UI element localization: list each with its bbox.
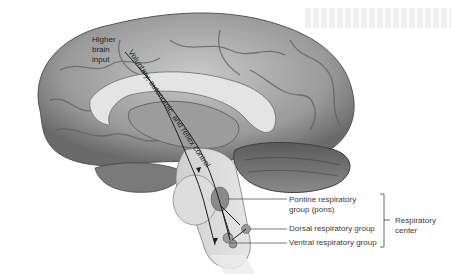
respiratory-center-bracket bbox=[380, 194, 390, 247]
temporal-lobe bbox=[95, 163, 181, 192]
pontine-group-nucleus bbox=[211, 187, 229, 211]
respiratory-center-label: Respiratory center bbox=[395, 216, 436, 236]
ventral-group-nucleus-b bbox=[229, 240, 237, 248]
brain-illustration: Voluntary, autonomic, and reflex control bbox=[0, 0, 451, 274]
pontine-respiratory-group-label: Pontine respiratory group (pons) bbox=[289, 195, 356, 215]
dorsal-respiratory-group-label: Dorsal respiratory group bbox=[289, 224, 375, 234]
cerebellum bbox=[234, 143, 350, 193]
higher-brain-input-label: Higher brain input bbox=[92, 35, 116, 65]
brain-respiratory-diagram: Voluntary, autonomic, and reflex control… bbox=[0, 0, 451, 274]
pons bbox=[173, 175, 217, 225]
faded-background-text bbox=[305, 8, 451, 28]
ventral-respiratory-group-label: Ventral respiratory group bbox=[289, 238, 377, 248]
